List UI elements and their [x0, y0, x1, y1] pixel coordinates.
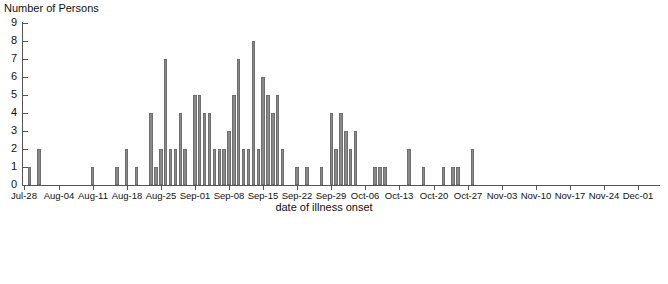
- x-tick-label-aug-11: Aug-11: [78, 191, 108, 201]
- bar: [344, 131, 347, 185]
- bar: [349, 149, 352, 185]
- bar: [91, 167, 94, 185]
- bar: [305, 167, 308, 185]
- bar: [471, 149, 474, 185]
- y-tick-label-7: 7: [0, 53, 17, 64]
- x-tick-label-oct-06: Oct-06: [351, 191, 380, 201]
- y-tick-mark-5: [22, 95, 28, 96]
- bar: [203, 113, 206, 185]
- bar: [135, 167, 138, 185]
- bar: [422, 167, 425, 185]
- x-tick-label-sep-22: Sep-22: [282, 191, 313, 201]
- y-tick-label-0: 0: [0, 179, 17, 190]
- y-tick-label-6: 6: [0, 71, 17, 82]
- y-tick-mark-8: [22, 41, 28, 42]
- x-tick-label-aug-04: Aug-04: [44, 191, 75, 201]
- bar: [271, 113, 274, 185]
- bar: [28, 167, 31, 185]
- x-tick-label-sep-15: Sep-15: [248, 191, 279, 201]
- y-tick-mark-2: [22, 149, 28, 150]
- y-axis-line: [22, 22, 23, 186]
- y-tick-label-4: 4: [0, 107, 17, 118]
- y-tick-mark-0: [22, 185, 28, 186]
- y-tick-label-8: 8: [0, 35, 17, 46]
- bar: [261, 77, 264, 185]
- y-axis-title: Number of Persons: [4, 2, 99, 14]
- bar: [193, 95, 196, 185]
- bar: [281, 149, 284, 185]
- y-tick-label-3: 3: [0, 125, 17, 136]
- bar: [456, 167, 459, 185]
- bar: [183, 149, 186, 185]
- bar: [154, 167, 157, 185]
- bar: [208, 113, 211, 185]
- bar: [125, 149, 128, 185]
- x-tick-label-nov-24: Nov-24: [589, 191, 620, 201]
- bar: [37, 149, 40, 185]
- x-tick-label-sep-08: Sep-08: [214, 191, 245, 201]
- bar: [373, 167, 376, 185]
- x-tick-label-jul-28: Jul-28: [11, 191, 37, 201]
- y-tick-label-2: 2: [0, 143, 17, 154]
- bar: [247, 149, 250, 185]
- bar: [334, 149, 337, 185]
- bar: [213, 149, 216, 185]
- bar: [232, 95, 235, 185]
- x-axis-title-text: date of illness onset: [275, 201, 372, 213]
- bar: [339, 113, 342, 185]
- bar: [378, 167, 381, 185]
- bar: [266, 95, 269, 185]
- bar: [257, 149, 260, 185]
- y-tick-label-5: 5: [0, 89, 17, 100]
- bar: [218, 149, 221, 185]
- bar: [164, 59, 167, 185]
- x-tick-label-nov-17: Nov-17: [555, 191, 586, 201]
- bar: [276, 95, 279, 185]
- bar: [242, 149, 245, 185]
- y-tick-mark-7: [22, 59, 28, 60]
- y-tick-mark-9: [22, 23, 28, 24]
- x-tick-label-aug-25: Aug-25: [146, 191, 177, 201]
- y-tick-mark-3: [22, 131, 28, 132]
- epi-curve-secondary-chart-cropped: 987: [0, 218, 668, 284]
- bar: [174, 149, 177, 185]
- x-tick-label-dec-01: Dec-01: [623, 191, 654, 201]
- bar: [179, 113, 182, 185]
- x-tick-label-oct-20: Oct-20: [420, 191, 449, 201]
- x-tick-label-sep-01: Sep-01: [180, 191, 211, 201]
- bar: [115, 167, 118, 185]
- y-tick-mark-6: [22, 77, 28, 78]
- bar: [354, 131, 357, 185]
- y-tick-label-1: 1: [0, 161, 17, 172]
- x-tick-label-sep-29: Sep-29: [316, 191, 347, 201]
- x-tick-label-aug-18: Aug-18: [112, 191, 143, 201]
- x-tick-label-nov-10: Nov-10: [521, 191, 552, 201]
- bar: [295, 167, 298, 185]
- x-tick-label-oct-13: Oct-13: [385, 191, 414, 201]
- x-tick-label-nov-03: Nov-03: [487, 191, 518, 201]
- bar: [407, 149, 410, 185]
- x-axis-title: date of illness onset: [0, 201, 668, 213]
- x-tick-label-oct-27: Oct-27: [454, 191, 483, 201]
- y-tick-label-9: 9: [0, 17, 17, 28]
- bar: [252, 41, 255, 185]
- bar: [222, 149, 225, 185]
- bar: [227, 131, 230, 185]
- y-tick-mark-4: [22, 113, 28, 114]
- bar: [383, 167, 386, 185]
- bar: [159, 149, 162, 185]
- bar: [320, 167, 323, 185]
- bar: [198, 95, 201, 185]
- epi-curve-main-chart: Number of Persons 0123456789 Jul-28Aug-0…: [0, 0, 668, 212]
- x-axis-line: [22, 185, 660, 186]
- bar: [442, 167, 445, 185]
- bar: [237, 59, 240, 185]
- bar: [330, 113, 333, 185]
- bar: [169, 149, 172, 185]
- bar: [451, 167, 454, 185]
- bar: [149, 113, 152, 185]
